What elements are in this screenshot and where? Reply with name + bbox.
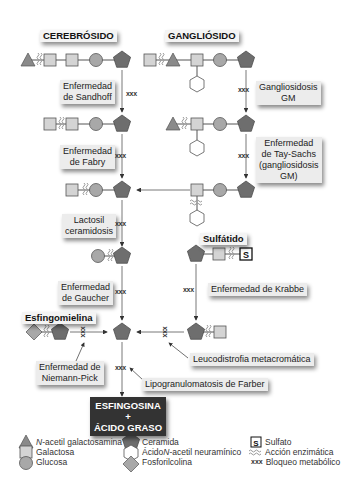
legend-col2: Ceramida Ácido N-acetil neuramínico Fosf… — [142, 437, 241, 467]
label-line: Enfermedad — [63, 81, 112, 92]
label-line: Gangliosidosis — [259, 82, 318, 93]
label-line: Lactosil — [65, 215, 113, 226]
legend-label: Ácido — [142, 447, 163, 457]
legend-enzyme-action: Acción enzimática — [251, 447, 340, 457]
legend-hexagon: Ácido N-acetil neuramínico — [142, 447, 241, 457]
block-marker-gm: xxx — [238, 86, 249, 94]
label-line: GM) — [259, 171, 319, 182]
label-line: Niemann-Pick — [39, 373, 101, 384]
legend-sulfate: Sulfato — [251, 437, 340, 447]
label-farber: Lipogranulomatosis de Farber — [142, 378, 268, 391]
label-gangliosidosis-gm: Gangliosidosis GM — [256, 81, 321, 105]
label-line: Enfermedad — [259, 138, 319, 149]
legend-pentagon: Ceramida — [142, 437, 241, 447]
legend-col1: N-acetil galactosamina Galactosa Glucosa — [36, 437, 122, 467]
final-line: + — [94, 411, 162, 422]
legend-diamond: Fosforilcolina — [142, 457, 241, 467]
block-marker-krabbe: xxx — [183, 286, 194, 294]
final-product: ESFINGOSINA + ÁCIDO GRASO — [90, 397, 166, 436]
title-esfingomielina: Esfingomielina — [22, 312, 96, 324]
title-sulfatido: Sulfátido — [200, 233, 247, 245]
legend-block: xxxBloqueo metabólico — [251, 457, 340, 467]
legend-label: Acción enzimática — [265, 447, 334, 457]
final-line: ÁCIDO GRASO — [94, 422, 162, 433]
cerebrosido-chain — [21, 51, 131, 67]
label-fabry: Enfermedad de Fabry — [60, 145, 115, 169]
glucosylceramide-chain — [92, 247, 131, 263]
sulfatido-chain: S — [187, 245, 252, 261]
legend-label: Galactosa — [36, 447, 74, 457]
legend-label: Bloqueo metabólico — [266, 457, 341, 467]
legend-circle: Glucosa — [36, 457, 122, 467]
label-line: Enfermedad de — [39, 362, 101, 373]
legend-label: -acetil galactosamina — [42, 437, 122, 447]
label-line: de Sandhoff — [63, 92, 112, 103]
final-line: ESFINGOSINA — [94, 400, 162, 411]
block-marker-niemann-pick: xxx — [79, 327, 87, 338]
row3-left-chain — [66, 181, 131, 197]
label-line: (gangliosidosis — [259, 160, 319, 171]
block-marker-fabry: xxx — [115, 152, 126, 160]
label-line: Enfermedad — [61, 282, 110, 293]
row3-right-chain — [190, 181, 255, 226]
legend-label: Fosforilcolina — [142, 457, 192, 467]
label-line: Enfermedad — [63, 146, 112, 157]
title-gangliosido: GANGLIÓSIDO — [165, 30, 239, 42]
label-gaucher: Enfermedad de Gaucher — [58, 281, 113, 305]
label-leucodistrofia: Leucodistrofia metacromática — [190, 353, 314, 366]
row2-right-chain — [166, 115, 255, 156]
block-marker-icon: xxx — [251, 457, 263, 467]
block-marker-sandhoff: xxx — [126, 90, 137, 98]
legend-label: Glucosa — [36, 457, 67, 467]
title-cerebrosido: CEREBRÓSIDO — [40, 30, 117, 42]
label-tay-sachs: Enfermedad de Tay-Sachs (gangliosidosis … — [256, 137, 322, 183]
pathway-diagram: S S — [0, 0, 352, 492]
block-marker-farber: xxx — [115, 364, 126, 372]
block-marker-gaucher: xxx — [115, 288, 126, 296]
legend-triangle: N-acetil galactosamina — [36, 437, 122, 447]
block-marker-tay-sachs: xxx — [238, 152, 249, 160]
legend-col3: Sulfato Acción enzimática xxxBloqueo met… — [251, 437, 340, 467]
legend-label: -acetil neuramínico — [169, 447, 241, 457]
ceramide-central — [113, 323, 130, 339]
label-krabbe: Enfermedad de Krabbe — [208, 283, 307, 296]
block-marker-lactosil: xxx — [115, 220, 126, 228]
row2-left-chain — [44, 115, 131, 131]
label-niemann-pick: Enfermedad de Niemann-Pick — [36, 361, 104, 385]
legend-label: Sulfato — [265, 437, 291, 447]
label-line: ceramidosis — [65, 226, 113, 237]
label-line: GM — [259, 93, 318, 104]
label-line: de Fabry — [63, 157, 112, 168]
sulfate-symbol: S — [243, 250, 249, 260]
sulfatide-lower-chain — [187, 323, 226, 339]
label-sandhoff: Enfermedad de Sandhoff — [60, 80, 115, 104]
label-line: de Gaucher — [61, 293, 110, 304]
esfingomielina-chain — [26, 323, 69, 340]
legend-label: Ceramida — [142, 437, 179, 447]
legend-square: Galactosa — [36, 447, 122, 457]
block-marker-leucodistrofia: xxx — [161, 327, 169, 338]
label-lactosil: Lactosil ceramidosis — [62, 214, 116, 238]
label-line: de Tay-Sachs — [259, 149, 319, 160]
